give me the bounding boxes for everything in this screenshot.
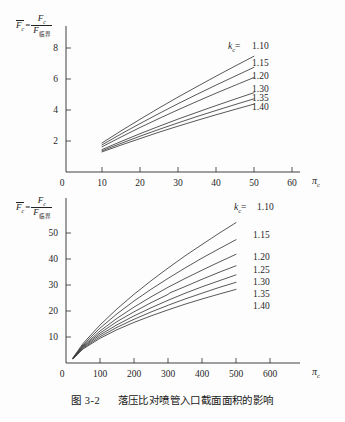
top-curve-1-20 <box>102 78 254 147</box>
top-xtick-5: 60 <box>287 178 297 188</box>
bottom-y-ticks <box>66 233 71 337</box>
bottom-origin-label: 0 <box>60 369 65 379</box>
top-curve-label-1: 1.15 <box>252 58 269 68</box>
top-curve-1-30 <box>102 93 254 150</box>
y-label-lhs: Fc <box>16 202 24 214</box>
bottom-ytick-1: 20 <box>49 306 59 316</box>
bottom-x-ticks <box>100 358 270 363</box>
bottom-curves <box>73 223 236 359</box>
top-origin-label: 0 <box>60 178 65 188</box>
bottom-ytick-3: 40 <box>49 254 59 264</box>
top-chart-y-axis-label: Fc=FcF临界 <box>16 14 52 37</box>
top-curve-1-10 <box>102 56 254 143</box>
bottom-series-prefix: kc= <box>234 202 246 214</box>
y-label-fraction: FcF临界 <box>31 196 52 219</box>
bottom-xtick-5: 600 <box>263 369 278 379</box>
bottom-x-axis-name: πc <box>312 366 320 379</box>
bottom-xtick-0: 100 <box>93 369 108 379</box>
figure-caption-text: 落压比对喷管入口截面面积的影响 <box>118 394 274 406</box>
top-curves <box>102 56 254 152</box>
top-curve-label-5: 1.40 <box>252 102 269 112</box>
bottom-ytick-2: 30 <box>49 280 59 290</box>
y-label-fraction: FcF临界 <box>31 14 52 37</box>
top-xtick-3: 40 <box>211 178 221 188</box>
top-xtick-2: 30 <box>173 178 183 188</box>
top-ytick-3: 8 <box>53 43 58 53</box>
top-ytick-0: 2 <box>53 136 58 146</box>
bottom-ytick-0: 10 <box>49 332 59 342</box>
top-y-ticks <box>66 48 71 141</box>
figure-caption: 图 3-2 落压比对喷管入口截面面积的影响 <box>0 392 345 407</box>
bottom-curve-label-4: 1.30 <box>253 277 270 287</box>
bottom-curve-1-25 <box>73 266 236 359</box>
bottom-xtick-4: 500 <box>229 369 244 379</box>
top-curve-label-2: 1.20 <box>252 71 269 81</box>
bottom-curve-label-5: 1.35 <box>253 289 270 299</box>
bottom-xtick-3: 400 <box>195 369 210 379</box>
top-curve-label-0: 1.10 <box>252 41 269 51</box>
bottom-xtick-1: 200 <box>127 369 142 379</box>
bottom-xtick-2: 300 <box>161 369 176 379</box>
top-curve-1-35 <box>102 99 254 151</box>
top-xtick-0: 10 <box>97 178 107 188</box>
top-xtick-4: 50 <box>249 178 259 188</box>
bottom-curve-label-6: 1.40 <box>253 301 270 311</box>
bottom-curve-label-0: 1.10 <box>257 202 274 212</box>
top-series-prefix: kc= <box>228 41 240 53</box>
bottom-ytick-4: 50 <box>49 228 59 238</box>
top-ytick-1: 4 <box>53 105 58 115</box>
top-xtick-1: 20 <box>135 178 145 188</box>
bottom-curve-1-40 <box>73 289 236 358</box>
top-curve-1-40 <box>102 104 254 152</box>
bottom-chart: Fc=FcF临界 10 <box>0 196 345 386</box>
bottom-curve-label-1: 1.15 <box>253 230 270 240</box>
top-ytick-2: 6 <box>53 74 58 84</box>
figure-caption-number: 图 3-2 <box>71 395 100 406</box>
top-chart: Fc=FcF临界 10 20 <box>0 0 345 196</box>
figure-container: Fc=FcF临界 10 20 <box>0 0 345 422</box>
top-x-axis-name: πc <box>312 175 320 188</box>
bottom-curve-label-2: 1.20 <box>253 252 270 262</box>
bottom-chart-plot: 100 200 300 400 500 600 10 20 30 40 50 0… <box>0 196 345 386</box>
bottom-curve-1-35 <box>73 282 236 358</box>
top-x-ticks <box>102 167 292 172</box>
bottom-curve-label-3: 1.25 <box>253 265 270 275</box>
bottom-chart-y-axis-label: Fc=FcF临界 <box>16 196 52 219</box>
y-label-lhs: Fc <box>16 20 24 32</box>
